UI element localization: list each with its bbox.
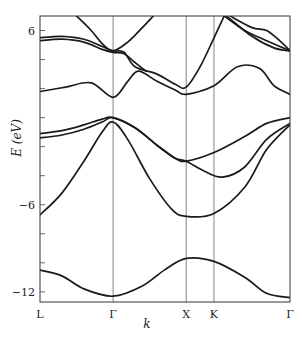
x-tick-label: K: [210, 308, 219, 321]
band-7: [77, 16, 154, 51]
x-axis-label: k: [143, 317, 150, 331]
y-tick-label: −6: [19, 199, 35, 212]
energy-bands: [40, 16, 290, 298]
y-tick-label: 6: [28, 25, 35, 38]
band-9: [226, 16, 290, 51]
x-tick-label: Γ: [109, 308, 117, 321]
x-tick-label: Γ: [286, 308, 294, 321]
y-tick-label: −12: [12, 286, 35, 299]
band-1: [40, 258, 290, 298]
band-6: [40, 39, 146, 71]
x-tick-label: L: [36, 308, 44, 321]
x-tick-label: X: [182, 308, 190, 321]
band-4: [40, 65, 290, 97]
band-3a: [40, 117, 290, 161]
band-structure-chart: 6−6−12 LΓXKΓ k E (eV): [0, 0, 302, 342]
y-axis-label: E (eV): [10, 119, 24, 158]
band-2: [40, 122, 290, 217]
band-10: [230, 16, 290, 51]
band-5: [40, 16, 224, 88]
x-axis-ticks: LΓXKΓ: [36, 308, 294, 321]
